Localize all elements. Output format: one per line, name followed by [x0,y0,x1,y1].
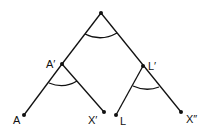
label-x-double-prime: X″ [186,113,197,125]
edge-aprime-a [24,64,62,115]
label-a-prime: A′ [46,58,55,70]
label-x-prime: X′ [88,114,97,126]
node-root [99,11,103,15]
label-a: A [13,114,21,126]
edge-root-aprime [62,13,101,64]
tree-diagram: A′ L′ A X′ L X″ [0,0,211,133]
node-a-prime [60,62,64,66]
label-l: L [120,115,126,127]
edge-root-lprime [101,13,181,112]
edge-lprime-l [116,66,143,115]
edge-aprime-xprime [62,64,104,112]
node-l-prime [141,64,145,68]
angle-arc-lprime [133,86,159,89]
angle-arc-aprime [49,81,77,86]
node-x-prime [102,110,106,114]
node-x-double-prime [179,110,183,114]
node-l [114,113,118,117]
angle-arc-root [85,33,117,38]
label-l-prime: L′ [148,60,156,72]
node-a [22,113,26,117]
